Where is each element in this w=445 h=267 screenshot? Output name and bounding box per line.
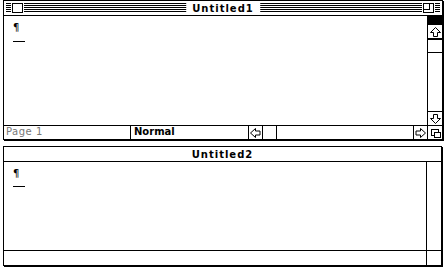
paragraph-mark: ¶	[13, 23, 19, 33]
up-arrow-icon[interactable]	[428, 25, 442, 39]
vertical-scrollbar[interactable]	[427, 16, 442, 125]
document-content-area[interactable]: ¶	[4, 162, 426, 250]
window-title: Untitled1	[186, 2, 260, 15]
paragraph-mark: ¶	[13, 169, 19, 179]
vertical-scroll-thumb[interactable]	[428, 39, 442, 53]
horizontal-scrollbar[interactable]	[248, 126, 427, 139]
style-name[interactable]: Normal	[130, 126, 248, 139]
horizontal-scroll-thumb[interactable]	[263, 126, 277, 139]
split-bar[interactable]	[428, 16, 442, 25]
document-window-untitled1[interactable]: Untitled1 ¶ Page 1 Normal	[3, 0, 443, 140]
status-bar: Page 1 Normal	[4, 125, 442, 139]
document-window-untitled2[interactable]: Untitled2 ¶	[3, 146, 442, 266]
title-bar[interactable]: Untitled2	[4, 147, 441, 162]
end-of-document-mark	[13, 41, 25, 42]
title-bar[interactable]: Untitled1	[4, 1, 442, 16]
horizontal-scrollbar-inactive[interactable]	[4, 250, 441, 251]
zoom-box-icon[interactable]	[423, 3, 434, 13]
end-of-document-mark	[13, 186, 25, 187]
right-arrow-icon[interactable]	[413, 126, 427, 139]
page-number: Page 1	[4, 126, 131, 139]
left-arrow-icon[interactable]	[249, 126, 263, 139]
close-box-icon[interactable]	[12, 3, 23, 13]
document-content-area[interactable]: ¶	[4, 16, 427, 125]
window-title: Untitled2	[186, 148, 260, 161]
down-arrow-icon[interactable]	[428, 111, 442, 125]
size-box-icon[interactable]	[427, 126, 442, 139]
